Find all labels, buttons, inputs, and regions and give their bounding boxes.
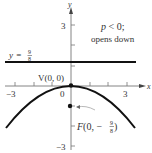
svg-text:8: 8 <box>110 128 113 134</box>
svg-text:9: 9 <box>110 120 113 126</box>
x-tick-neg3: −3 <box>6 89 16 99</box>
x-axis-label: x <box>146 82 151 91</box>
svg-text:): ) <box>114 121 117 133</box>
y-tick-3: 3 <box>61 21 66 31</box>
x-tick-0: 0 <box>60 89 65 99</box>
x-axis-arrow-icon <box>139 84 146 88</box>
svg-text:opens down: opens down <box>91 34 135 44</box>
directrix-label: y = 9 8 <box>8 49 32 62</box>
focus-label: F(0, − 9 8 ) <box>76 120 117 134</box>
x-tick-3: 3 <box>123 89 128 99</box>
annotation-p-negative: p < 0; opens down <box>91 21 135 44</box>
parabola-diagram: y 3 −3 x −3 0 3 y = 9 8 p < 0; opens dow… <box>0 0 152 153</box>
y-tick-neg3: −3 <box>56 142 66 152</box>
y-axis-label: y <box>67 0 72 9</box>
vertex-point <box>69 83 73 87</box>
svg-text:p < 0;: p < 0; <box>100 21 125 32</box>
vertex-label: V(0, 0) <box>38 73 64 83</box>
svg-text:9: 9 <box>28 49 31 55</box>
svg-text:=: = <box>14 50 24 60</box>
focus-point <box>68 104 72 108</box>
svg-text:8: 8 <box>28 56 31 62</box>
svg-text:F(0, −: F(0, − <box>76 121 102 133</box>
x-axis: x −3 0 3 <box>5 82 151 99</box>
svg-text:y: y <box>8 50 13 60</box>
